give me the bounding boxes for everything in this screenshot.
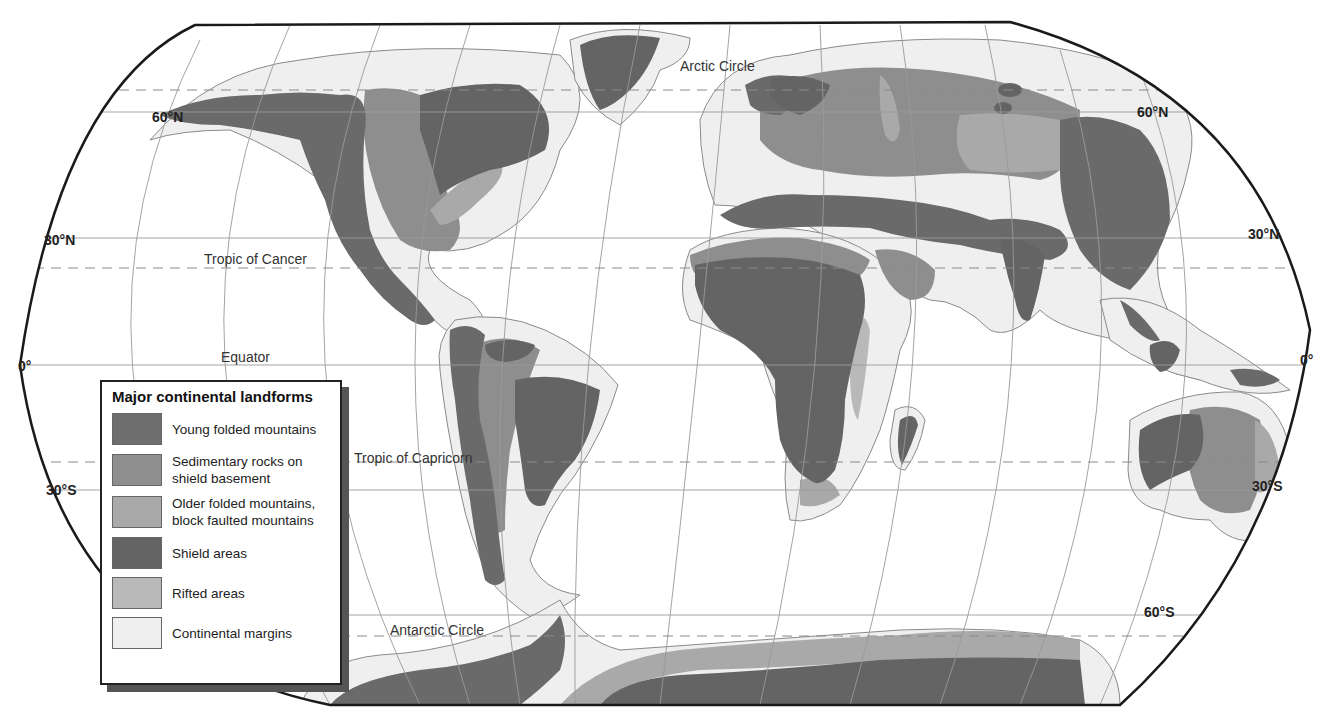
legend-item-young-folded-mountains: Young folded mountains <box>112 413 332 445</box>
swatch-shield-areas <box>112 537 162 569</box>
lat-label-30s-right: 30°S <box>1252 478 1283 494</box>
legend-label: Sedimentary rocks on shield basement <box>172 453 322 487</box>
antarctic-circle-label: Antarctic Circle <box>390 622 484 638</box>
lat-label-30s-left: 30°S <box>46 482 77 498</box>
swatch-older-folded-mountains <box>112 496 162 528</box>
lat-label-equator-right: 0° <box>1300 352 1313 368</box>
lat-label-60s-right: 60°S <box>1144 604 1175 620</box>
legend-item-shield-areas: Shield areas <box>112 537 332 569</box>
lat-label-60n-right: 60°N <box>1137 104 1168 120</box>
lat-label-30n-left: 30°N <box>44 232 75 248</box>
legend: Major continental landforms Young folded… <box>100 380 342 685</box>
lat-label-30n-right: 30°N <box>1248 226 1279 242</box>
legend-label: Young folded mountains <box>172 421 316 438</box>
tropic-of-capricorn-label: Tropic of Capricorn <box>354 450 473 466</box>
lat-label-equator-left: 0° <box>18 358 31 374</box>
lat-label-60n-left: 60°N <box>152 109 183 125</box>
legend-item-sedimentary-rocks: Sedimentary rocks on shield basement <box>112 453 332 487</box>
swatch-rifted-areas <box>112 577 162 609</box>
legend-label: Older folded mountains, block faulted mo… <box>172 495 332 529</box>
equator-label: Equator <box>221 349 270 365</box>
legend-item-rifted-areas: Rifted areas <box>112 577 332 609</box>
legend-item-continental-margins: Continental margins <box>112 617 332 649</box>
legend-label: Shield areas <box>172 545 247 562</box>
legend-label: Continental margins <box>172 625 292 642</box>
swatch-sedimentary-rocks <box>112 454 162 486</box>
legend-title: Major continental landforms <box>112 388 332 405</box>
swatch-young-folded-mountains <box>112 413 162 445</box>
tropic-of-cancer-label: Tropic of Cancer <box>204 251 307 267</box>
arctic-circle-label: Arctic Circle <box>680 58 755 74</box>
legend-label: Rifted areas <box>172 585 245 602</box>
legend-item-older-folded-mountains: Older folded mountains, block faulted mo… <box>112 495 332 529</box>
swatch-continental-margins <box>112 617 162 649</box>
